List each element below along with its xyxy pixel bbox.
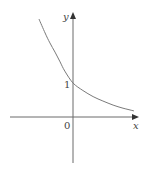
y-axis-label: y xyxy=(62,11,69,22)
exponential-curve xyxy=(39,19,134,111)
origin-label: 0 xyxy=(64,120,70,131)
y-tick-label-1: 1 xyxy=(64,79,70,90)
x-axis-label: x xyxy=(133,120,139,131)
exponential-decay-plot: y x 0 1 xyxy=(0,0,149,173)
y-axis-arrow-icon xyxy=(70,12,76,19)
